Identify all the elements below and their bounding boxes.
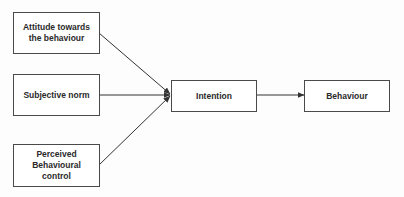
node-pbc-label: Perceived Behavioural control — [18, 149, 95, 182]
node-intention: Intention — [171, 80, 257, 112]
node-attitude-label: Attitude towards the behaviour — [18, 22, 95, 44]
node-behaviour-label: Behaviour — [326, 91, 368, 102]
edge-attitude-to-intention — [99, 33, 170, 94]
node-subjective-norm-label: Subjective norm — [23, 90, 89, 101]
node-attitude: Attitude towards the behaviour — [13, 12, 100, 54]
node-perceived-behavioural-control: Perceived Behavioural control — [13, 144, 100, 187]
edge-pbc-to-intention — [99, 96, 170, 165]
node-subjective-norm: Subjective norm — [13, 74, 100, 116]
node-behaviour: Behaviour — [304, 80, 390, 112]
diagram-canvas: Attitude towards the behaviour Subjectiv… — [0, 0, 404, 197]
node-intention-label: Intention — [196, 91, 232, 102]
